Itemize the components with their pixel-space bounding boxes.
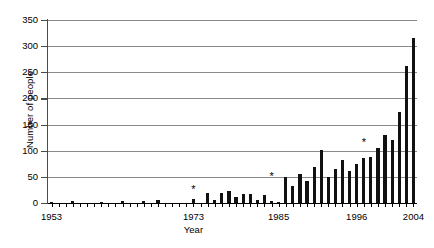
x-tick bbox=[413, 203, 414, 207]
asterisk-annotation: * bbox=[191, 186, 195, 192]
bar bbox=[362, 158, 365, 203]
x-axis-title: Year bbox=[184, 224, 203, 235]
x-tick bbox=[378, 203, 379, 207]
x-tick bbox=[392, 203, 393, 207]
bar bbox=[405, 66, 408, 203]
x-tick bbox=[80, 203, 81, 207]
x-tick bbox=[73, 203, 74, 207]
x-tick bbox=[172, 203, 173, 207]
x-tick-label-1985: 1985 bbox=[268, 211, 289, 222]
x-tick bbox=[101, 203, 102, 207]
bar bbox=[348, 171, 351, 203]
x-tick bbox=[314, 203, 315, 207]
bar bbox=[206, 193, 209, 203]
plot-area: *** bbox=[48, 20, 417, 203]
y-tick-100 bbox=[41, 151, 48, 152]
x-tick bbox=[342, 203, 343, 207]
x-tick bbox=[66, 203, 67, 207]
bar bbox=[263, 195, 266, 203]
bar bbox=[355, 164, 358, 203]
bar bbox=[305, 181, 308, 203]
bar bbox=[298, 174, 301, 203]
x-tick-label-1953: 1953 bbox=[41, 211, 62, 222]
x-tick bbox=[335, 203, 336, 207]
y-tick-label-150: 150 bbox=[0, 120, 38, 130]
y-tick-label-0: 0 bbox=[0, 198, 38, 208]
x-tick bbox=[59, 203, 60, 207]
x-tick bbox=[130, 203, 131, 207]
x-tick bbox=[151, 203, 152, 207]
x-tick-label-2004: 2004 bbox=[403, 211, 424, 222]
x-tick bbox=[286, 203, 287, 207]
x-tick bbox=[279, 203, 280, 207]
y-tick-150 bbox=[41, 125, 48, 126]
y-tick-label-300: 300 bbox=[0, 41, 38, 51]
x-axis-line bbox=[48, 203, 417, 204]
bar bbox=[320, 150, 323, 203]
x-tick bbox=[357, 203, 358, 207]
x-tick bbox=[186, 203, 187, 207]
x-tick bbox=[123, 203, 124, 207]
x-tick bbox=[236, 203, 237, 207]
x-tick bbox=[222, 203, 223, 207]
y-tick-200 bbox=[41, 98, 48, 99]
x-tick bbox=[257, 203, 258, 207]
x-tick bbox=[321, 203, 322, 207]
bar bbox=[291, 186, 294, 203]
bar bbox=[242, 194, 245, 203]
x-tick bbox=[385, 203, 386, 207]
x-tick bbox=[229, 203, 230, 207]
y-tick-350 bbox=[41, 20, 48, 21]
bar bbox=[383, 135, 386, 203]
x-tick bbox=[52, 203, 53, 207]
bar bbox=[369, 157, 372, 203]
x-tick bbox=[250, 203, 251, 207]
x-tick bbox=[243, 203, 244, 207]
x-tick bbox=[272, 203, 273, 207]
asterisk-annotation: * bbox=[362, 139, 366, 145]
x-tick bbox=[115, 203, 116, 207]
x-tick-label-1996: 1996 bbox=[346, 211, 367, 222]
y-tick-300 bbox=[41, 46, 48, 47]
bar bbox=[227, 191, 230, 203]
x-tick bbox=[406, 203, 407, 207]
x-tick bbox=[307, 203, 308, 207]
asterisk-annotation: * bbox=[269, 173, 273, 179]
y-tick-label-50: 50 bbox=[0, 172, 38, 182]
bar bbox=[376, 148, 379, 203]
bar bbox=[412, 38, 415, 203]
bar bbox=[284, 177, 287, 203]
x-tick bbox=[208, 203, 209, 207]
x-tick bbox=[94, 203, 95, 207]
x-tick bbox=[399, 203, 400, 207]
y-tick-label-200: 200 bbox=[0, 93, 38, 103]
bar bbox=[334, 169, 337, 203]
y-tick-label-350: 350 bbox=[0, 15, 38, 25]
x-tick bbox=[328, 203, 329, 207]
x-tick bbox=[350, 203, 351, 207]
y-tick-label-100: 100 bbox=[0, 146, 38, 156]
x-tick bbox=[158, 203, 159, 207]
y-tick-0 bbox=[41, 203, 48, 204]
bar bbox=[341, 160, 344, 203]
x-tick bbox=[165, 203, 166, 207]
bar bbox=[220, 193, 223, 203]
bar-series bbox=[48, 20, 417, 203]
bar bbox=[391, 140, 394, 203]
x-tick bbox=[193, 203, 194, 207]
y-tick-50 bbox=[41, 177, 48, 178]
x-tick bbox=[201, 203, 202, 207]
y-tick-label-250: 250 bbox=[0, 67, 38, 77]
bar bbox=[313, 167, 316, 203]
x-tick bbox=[144, 203, 145, 207]
x-tick bbox=[364, 203, 365, 207]
x-tick-label-1973: 1973 bbox=[183, 211, 204, 222]
x-tick bbox=[87, 203, 88, 207]
x-tick bbox=[179, 203, 180, 207]
x-tick bbox=[293, 203, 294, 207]
x-tick bbox=[264, 203, 265, 207]
x-tick bbox=[300, 203, 301, 207]
bar-chart-figure: Number of people *** 0501001502002503003… bbox=[0, 0, 434, 248]
bar bbox=[249, 194, 252, 203]
x-tick bbox=[137, 203, 138, 207]
